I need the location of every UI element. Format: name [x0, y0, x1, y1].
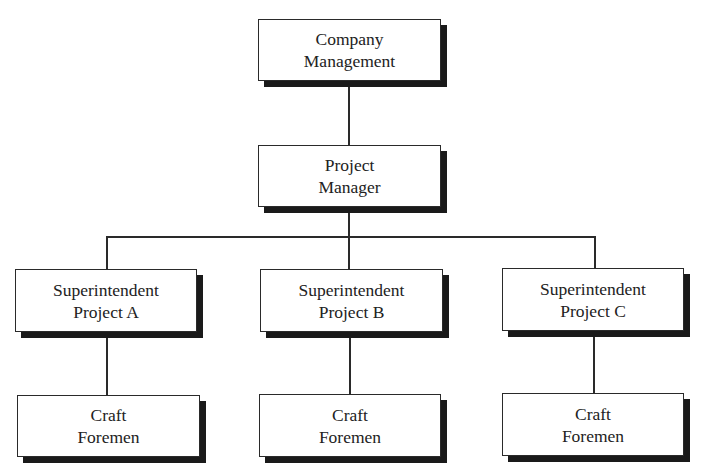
node-label-line1: Craft	[332, 404, 368, 426]
connector-manager-bus	[348, 207, 350, 238]
connector-bus-sup-a	[106, 236, 108, 269]
connector-bus-sup-c	[594, 236, 596, 268]
connector-horizontal-bus	[106, 236, 596, 238]
node-label-line1: Project	[325, 154, 375, 176]
node-label-line2: Management	[304, 50, 395, 72]
connector-bus-sup-b	[348, 236, 350, 269]
node-project-manager: Project Manager	[258, 145, 441, 207]
connector-sup-a-foremen	[106, 332, 108, 395]
node-label-line2: Foremen	[319, 426, 381, 448]
connector-sup-c-foremen	[593, 331, 595, 395]
node-label-line1: Craft	[91, 404, 127, 426]
node-superintendent-c: Superintendent Project C	[502, 268, 684, 331]
node-label-line2: Foremen	[562, 425, 624, 447]
node-superintendent-a: Superintendent Project A	[15, 269, 197, 332]
node-craft-foremen-a: Craft Foremen	[17, 395, 200, 457]
node-label-line1: Superintendent	[299, 279, 405, 301]
node-label-line2: Project A	[73, 301, 139, 323]
node-label-line1: Superintendent	[53, 279, 159, 301]
node-label-line2: Manager	[318, 176, 380, 198]
connector-sup-b-foremen	[349, 332, 351, 395]
node-superintendent-b: Superintendent Project B	[260, 269, 443, 332]
node-label-line1: Superintendent	[540, 278, 646, 300]
node-label-line2: Foremen	[77, 426, 139, 448]
node-craft-foremen-b: Craft Foremen	[259, 394, 441, 457]
node-label-line2: Project C	[560, 300, 626, 322]
node-label-line2: Project B	[319, 301, 385, 323]
node-label-line1: Craft	[575, 403, 611, 425]
node-label-line1: Company	[315, 28, 383, 50]
node-company-management: Company Management	[258, 19, 441, 81]
node-craft-foremen-c: Craft Foremen	[502, 393, 684, 456]
connector-root-manager	[348, 81, 350, 145]
